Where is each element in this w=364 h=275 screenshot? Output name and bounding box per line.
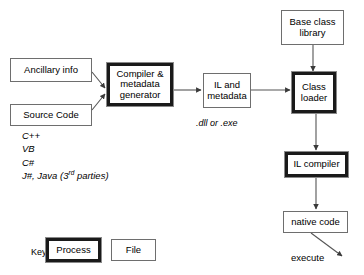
- language-item-0: C++: [22, 129, 109, 142]
- key-process-label: Process: [56, 245, 90, 256]
- node-il-and-metadata-label: IL and metadata: [204, 80, 250, 101]
- caption-dll-or-exe: .dll or .exe: [196, 118, 238, 128]
- language-item-1: VB: [22, 142, 109, 155]
- node-il-compiler-label: IL compiler: [293, 159, 339, 170]
- node-source-code: Source Code: [10, 104, 92, 126]
- node-compiler-metadata-generator: Compiler & metadata generator: [107, 63, 173, 106]
- node-il-and-metadata: IL and metadata: [203, 73, 251, 108]
- key-file-swatch: File: [111, 239, 156, 261]
- arrow-source-to-compiler: [92, 94, 105, 110]
- node-compiler-label: Compiler & metadata generator: [110, 69, 170, 101]
- key-file-label: File: [126, 245, 141, 256]
- node-ancillary-info-label: Ancillary info: [24, 65, 78, 76]
- node-native-code-label: native code: [291, 217, 340, 228]
- node-base-class-library: Base class library: [281, 10, 344, 45]
- node-il-compiler: IL compiler: [285, 152, 348, 177]
- node-source-code-label: Source Code: [23, 110, 78, 121]
- language-item-3: J#, Java (3rd parties): [22, 169, 109, 182]
- language-item-2: C#: [22, 156, 109, 169]
- node-ancillary-info: Ancillary info: [10, 58, 92, 82]
- key-process-swatch: Process: [46, 238, 101, 262]
- arrow-ancillary-to-compiler: [92, 72, 105, 88]
- node-base-class-library-label: Base class library: [282, 17, 343, 38]
- label-execute: execute: [291, 252, 324, 263]
- node-class-loader: Class loader: [292, 72, 336, 113]
- node-native-code: native code: [283, 211, 348, 233]
- language-item-3-suffix: parties): [74, 170, 108, 181]
- language-item-3-prefix: J#, Java (3: [22, 170, 68, 181]
- diagram-canvas: Ancillary info Source Code C++ VB C# J#,…: [0, 0, 364, 275]
- node-class-loader-label: Class loader: [295, 82, 333, 103]
- language-list: C++ VB C# J#, Java (3rd parties): [22, 129, 109, 183]
